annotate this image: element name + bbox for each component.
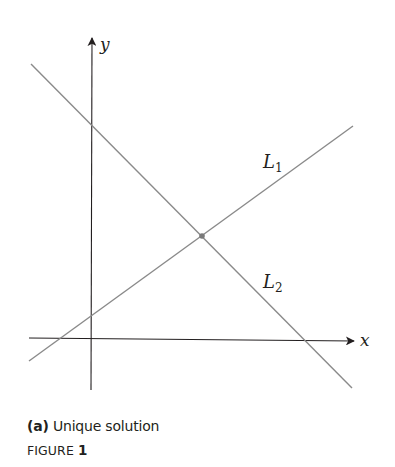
figure-number: 1: [78, 442, 88, 458]
line-l2-label: L2: [262, 271, 283, 295]
graph-canvas: x y L1 L2: [0, 0, 395, 467]
line-l1: [29, 126, 353, 361]
figure-caption: (a) Unique solution: [27, 418, 159, 434]
y-axis: [91, 38, 92, 390]
intersection-point: [199, 233, 205, 239]
linear-system-figure: x y L1 L2: [0, 0, 395, 467]
figure-prefix: FIGURE: [27, 443, 74, 458]
caption-part-label: (a): [27, 418, 49, 434]
y-axis-label: y: [99, 34, 110, 54]
caption-text: Unique solution: [53, 418, 159, 434]
x-axis-label: x: [360, 330, 370, 350]
figure-number-label: FIGURE 1: [27, 442, 87, 458]
line-l1-label: L1: [262, 151, 283, 175]
